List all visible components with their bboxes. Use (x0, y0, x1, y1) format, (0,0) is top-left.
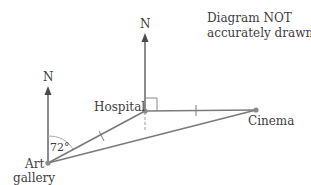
diagram-note-line2: accurately drawn (207, 26, 311, 40)
line-art-gallery-hospital (48, 111, 145, 163)
angle-label: 72° (50, 141, 70, 155)
north-label-hospital: N (140, 17, 151, 31)
diagram-note-line1: Diagram NOT (207, 11, 292, 25)
north-label-art-gallery: N (43, 70, 54, 84)
north-arrowhead-hospital (142, 33, 149, 42)
hospital-label: Hospital (94, 100, 145, 114)
line-hospital-cinema (145, 110, 256, 111)
point-cinema (253, 107, 258, 112)
point-art-gallery (45, 160, 50, 165)
art-gallery-label-line1: Art (25, 157, 44, 171)
cinema-label: Cinema (248, 114, 294, 128)
north-arrowhead-art-gallery (45, 86, 52, 95)
line-art-gallery-cinema (48, 110, 256, 163)
right-angle-marker (145, 98, 157, 111)
art-gallery-label-line2: gallery (13, 171, 55, 185)
